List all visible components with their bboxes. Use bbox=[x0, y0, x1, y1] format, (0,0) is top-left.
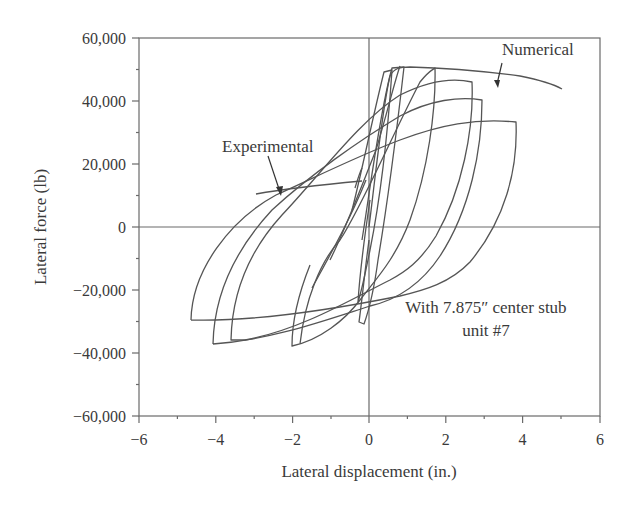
x-tick-label: −2 bbox=[284, 431, 301, 448]
x-tick-label: −6 bbox=[130, 431, 147, 448]
y-tick-label: 20,000 bbox=[82, 156, 126, 173]
hysteresis-chart: 60,000 40,000 20,000 0 −20,000 −40,000 −… bbox=[0, 0, 636, 508]
specimen-note-line1: With 7.875″ center stub bbox=[405, 298, 566, 317]
x-tick-label: 4 bbox=[519, 431, 527, 448]
x-axis-ticks bbox=[139, 416, 600, 423]
y-tick-labels: 60,000 40,000 20,000 0 −20,000 −40,000 −… bbox=[73, 30, 126, 425]
y-tick-label: −40,000 bbox=[73, 345, 126, 362]
y-tick-label: −20,000 bbox=[73, 282, 126, 299]
x-tick-label: 0 bbox=[365, 431, 373, 448]
numerical-arrowhead-icon bbox=[494, 80, 500, 88]
experimental-arrow bbox=[268, 156, 280, 192]
y-tick-label: −60,000 bbox=[73, 408, 126, 425]
x-axis-title: Lateral displacement (in.) bbox=[281, 462, 456, 481]
x-tick-labels: −6 −4 −2 0 2 4 6 bbox=[130, 431, 604, 448]
numerical-label: Numerical bbox=[502, 40, 574, 59]
y-axis-ticks bbox=[132, 38, 139, 416]
y-tick-label: 0 bbox=[118, 219, 126, 236]
specimen-note-line2: unit #7 bbox=[462, 321, 510, 340]
x-tick-label: 6 bbox=[596, 431, 604, 448]
y-tick-label: 60,000 bbox=[82, 30, 126, 47]
x-tick-label: −4 bbox=[207, 431, 224, 448]
experimental-label: Experimental bbox=[222, 137, 314, 156]
x-tick-label: 2 bbox=[442, 431, 450, 448]
y-tick-label: 40,000 bbox=[82, 93, 126, 110]
y-axis-title: Lateral force (lb) bbox=[31, 169, 50, 285]
